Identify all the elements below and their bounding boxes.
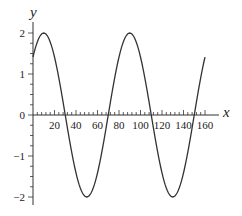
y-axis-label: y (28, 4, 37, 20)
x-tick-label: 160 (197, 119, 214, 131)
y-tick-label: −1 (13, 150, 25, 162)
sine-wave-chart: 20406080100120140160−2−1012 x y (0, 0, 242, 216)
x-tick-label: 100 (132, 119, 149, 131)
axes (33, 22, 219, 205)
y-tick-label: −2 (13, 191, 25, 203)
x-axis-label: x (222, 104, 230, 120)
x-tick-label: 60 (92, 119, 104, 131)
y-tick-label: 1 (20, 68, 26, 80)
x-tick-label: 140 (175, 119, 192, 131)
y-tick-label: 2 (20, 27, 26, 39)
x-tick-label: 120 (154, 119, 171, 131)
x-tick-label: 20 (49, 119, 61, 131)
x-tick-label: 40 (71, 119, 83, 131)
y-tick-label: 0 (20, 109, 26, 121)
x-tick-label: 80 (114, 119, 126, 131)
